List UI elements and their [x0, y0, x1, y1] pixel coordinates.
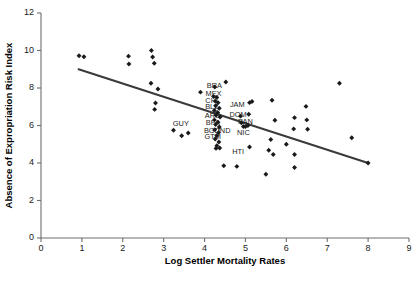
x-tick-label: 9 [406, 243, 411, 253]
data-point [186, 131, 191, 136]
data-point [292, 165, 297, 170]
data-point [291, 126, 296, 131]
x-tick-label: 8 [366, 243, 371, 253]
data-points-group [77, 48, 371, 177]
data-point [292, 152, 297, 157]
x-tick-label: 0 [38, 243, 43, 253]
data-point [284, 142, 289, 147]
x-axis-title: Log Settler Mortality Rates [165, 255, 285, 266]
data-point [150, 55, 155, 60]
data-point [263, 172, 268, 177]
data-point [223, 80, 228, 85]
point-label-jam: JAM [230, 100, 245, 109]
point-label-nic: NIC [237, 128, 250, 137]
x-tick-label: 7 [325, 243, 330, 253]
data-point [366, 161, 371, 166]
point-label-hti: HTI [232, 147, 244, 156]
x-tick-label: 1 [79, 243, 84, 253]
data-point [152, 61, 157, 66]
point-label-pan: PAN [238, 117, 253, 126]
data-point [268, 137, 273, 142]
data-point [126, 62, 131, 67]
data-point [247, 145, 252, 150]
y-tick-label: 12 [24, 7, 34, 17]
data-point [126, 54, 131, 59]
data-point [271, 152, 276, 157]
scatter-chart-figure: 0246810120123456789Log Settler Mortality… [0, 0, 417, 282]
x-tick-label: 2 [120, 243, 125, 253]
data-point [149, 81, 154, 86]
data-point [304, 117, 309, 122]
data-point [81, 54, 86, 59]
regression-line [79, 69, 368, 163]
y-axis-title: Absence of Expropriation Risk Index [3, 42, 14, 208]
data-point [349, 135, 354, 140]
data-point [266, 148, 271, 153]
data-point [153, 101, 158, 106]
x-tick-label: 5 [243, 243, 248, 253]
data-point [304, 104, 309, 109]
data-point [272, 118, 277, 123]
data-point [152, 107, 157, 112]
y-tick-label: 0 [29, 232, 34, 242]
data-point [234, 164, 239, 169]
x-tick-label: 6 [284, 243, 289, 253]
data-point [149, 48, 154, 53]
data-point [246, 112, 251, 117]
data-point [77, 53, 82, 58]
data-point [270, 98, 275, 103]
data-point [305, 127, 310, 132]
x-tick-label: 4 [202, 243, 207, 253]
x-tick-label: 3 [161, 243, 166, 253]
data-point [292, 115, 297, 120]
y-tick-label: 10 [24, 45, 34, 55]
point-label-gtm: GTM [205, 132, 221, 141]
data-point [337, 81, 342, 86]
data-point [221, 163, 226, 168]
point-label-guy: GUY [173, 119, 189, 128]
y-tick-label: 2 [29, 195, 34, 205]
data-point [171, 128, 176, 133]
data-point [179, 133, 184, 138]
data-point [198, 90, 203, 95]
y-tick-label: 4 [29, 157, 34, 167]
y-tick-label: 8 [29, 82, 34, 92]
data-point [155, 86, 160, 91]
point-label-blz: BLZ [205, 102, 219, 111]
y-tick-label: 6 [29, 120, 34, 130]
chart-canvas: 0246810120123456789Log Settler Mortality… [0, 0, 417, 282]
plot-area: 0246810120123456789Log Settler Mortality… [0, 0, 417, 282]
